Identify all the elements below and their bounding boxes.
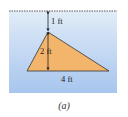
depth-label: 1 ft — [51, 16, 63, 26]
height-label: 2 ft — [40, 46, 52, 56]
figure-caption: (a) — [0, 100, 128, 111]
base-label: 4 ft — [61, 74, 73, 84]
submerged-triangle-figure: 1 ft 2 ft 4 ft (a) — [0, 0, 128, 117]
